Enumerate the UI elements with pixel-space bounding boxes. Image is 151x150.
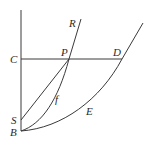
label-d: D	[112, 46, 121, 58]
segment-sp	[21, 59, 69, 120]
label-b: B	[10, 126, 17, 138]
label-r: R	[68, 17, 76, 29]
label-p: P	[60, 46, 68, 58]
curve-e	[21, 23, 143, 131]
label-e: E	[85, 105, 93, 117]
label-c: C	[10, 53, 18, 65]
label-f: f	[55, 93, 60, 105]
geometry-diagram: R P D C S B f E	[0, 0, 151, 150]
label-s: S	[11, 114, 17, 126]
